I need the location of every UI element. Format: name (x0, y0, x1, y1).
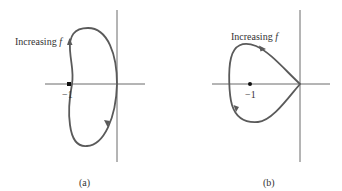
critical-point-a (67, 82, 71, 86)
nyquist-curve-a (69, 28, 117, 146)
critical-point-b (248, 82, 252, 86)
critical-point-label-a: −1 (62, 89, 73, 100)
panel-a: −1 Increasing f (a) (15, 10, 145, 189)
critical-point-label-b: −1 (245, 89, 256, 100)
annotation-increasing-f-b: Increasing f (231, 31, 279, 42)
nyquist-diagrams: −1 Increasing f (a) −1 Increasing f (b) (0, 0, 342, 191)
panel-b: −1 Increasing f (b) (212, 10, 330, 189)
nyquist-curve-b (229, 44, 300, 122)
annotation-increasing-f-a: Increasing f (15, 36, 63, 47)
caption-a: (a) (79, 177, 90, 189)
caption-b: (b) (263, 177, 275, 189)
